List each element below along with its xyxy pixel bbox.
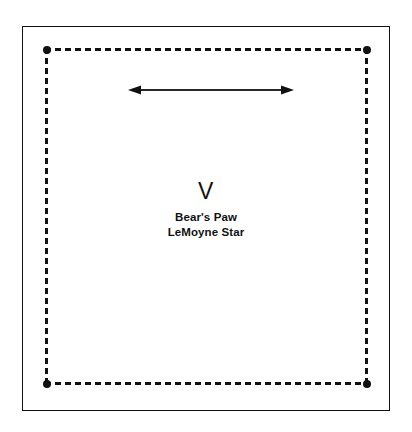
width-dimension-arrow: [126, 79, 296, 101]
arrow-shaft: [139, 89, 283, 91]
corner-dot-top-right: [363, 46, 371, 54]
pattern-name-2: LeMoyne Star: [0, 225, 412, 240]
corner-dot-top-left: [43, 46, 51, 54]
block-label-group: V Bear's Paw LeMoyne Star: [0, 178, 412, 240]
pattern-name-1: Bear's Paw: [0, 210, 412, 225]
figure-root: V Bear's Paw LeMoyne Star: [0, 0, 412, 432]
corner-dot-bottom-left: [43, 380, 51, 388]
corner-dot-bottom-right: [363, 380, 371, 388]
dashed-edge-top: [45, 48, 368, 51]
block-numeral: V: [0, 178, 412, 204]
dashed-edge-bottom: [45, 382, 368, 385]
pattern-name-list: Bear's Paw LeMoyne Star: [0, 210, 412, 240]
